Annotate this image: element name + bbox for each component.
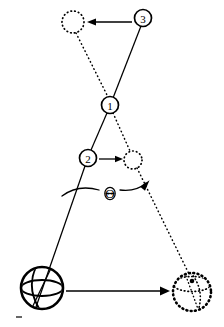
angle-symbol-label: Θ — [105, 186, 114, 201]
theta-arc-left — [62, 188, 99, 196]
diagram-canvas: 3 1 2 — [0, 0, 224, 327]
ball-translation-head — [160, 287, 170, 296]
rod-initial-lower-segment — [36, 166, 85, 307]
rod-initial-mid-segment — [91, 113, 107, 150]
ball-final — [173, 273, 211, 311]
arrow-2-head — [115, 156, 123, 162]
marker-1: 1 — [102, 97, 119, 114]
marker-3-label: 3 — [140, 13, 146, 25]
marker-1-label: 1 — [107, 100, 113, 112]
marker-3: 3 — [135, 10, 152, 27]
rod-final-mid-segment — [113, 113, 130, 151]
ghost-circle-mid — [124, 151, 142, 169]
rotation-diagram-figure: 3 1 2 — [0, 0, 224, 327]
arrow-ball-translation — [66, 287, 170, 296]
arrow-3-to-ghost-top — [87, 19, 132, 26]
arrow-3-head — [87, 19, 96, 26]
marker-2-label: 2 — [85, 153, 91, 165]
ball-initial-meridian — [32, 267, 40, 310]
rod-initial-upper-segment — [113, 26, 141, 98]
rod-final-upper-segment — [76, 33, 108, 97]
marker-2: 2 — [80, 150, 97, 167]
ball-initial — [21, 262, 63, 312]
ball-final-hub — [190, 279, 195, 284]
arrow-2-to-ghost-mid — [99, 156, 123, 162]
angle-theta-annotation: Θ — [62, 180, 150, 201]
ghost-circle-top — [62, 11, 84, 33]
